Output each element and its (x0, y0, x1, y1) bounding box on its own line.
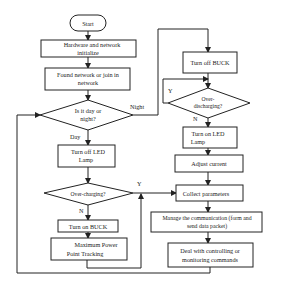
node-hw-init: Hardware and network initialize (41, 40, 136, 57)
node-turn-on-buck-text: Turn on BUCK (69, 223, 108, 230)
node-hw-init-line2: initialize (77, 49, 99, 56)
node-mppt-line1: Maximum Power (74, 241, 117, 248)
node-deal-commands-line1: Deal with controlling or (180, 247, 240, 254)
edge-label-charge-no: N (79, 207, 84, 214)
edge-label-discharge-yes: Y (168, 87, 173, 94)
node-over-discharging-decision: Over- discharging? (168, 88, 250, 118)
node-turn-on-led-line1: Turn on LED (191, 130, 225, 137)
node-manage-communication-line2: send data packet) (187, 223, 227, 230)
node-manage-communication: Manage the communication (form and send … (151, 212, 262, 232)
node-collect-parameters: Collect parameters (176, 185, 243, 201)
node-turn-off-buck-text: Turn off BUCK (190, 59, 230, 66)
node-day-night-decision: Is it day or night? (40, 100, 133, 130)
node-start: Start (70, 15, 106, 31)
node-turn-off-led: Turn off LED Lamp (58, 145, 115, 167)
node-deal-commands: Deal with controlling or monitoring comm… (168, 243, 253, 267)
node-turn-on-led: Turn on LED Lamp (183, 127, 237, 148)
node-found-network-line2: network (78, 79, 99, 86)
node-turn-off-led-line1: Turn off LED (71, 148, 106, 155)
edge-label-day: Day (70, 133, 81, 140)
node-day-night-line1: Is it day or (75, 107, 102, 114)
edge-label-night: Night (130, 103, 144, 110)
node-over-discharging-line2: discharging? (194, 103, 223, 109)
node-turn-on-buck: Turn on BUCK (58, 220, 118, 232)
node-mppt: Maximum Power Point Tracking (51, 238, 127, 260)
node-found-network-line1: Found network or join in (57, 71, 119, 78)
node-over-charging-decision: Over-charging? (44, 183, 133, 205)
edge-label-discharge-no: N (193, 115, 198, 122)
node-turn-off-led-line2: Lamp (79, 156, 93, 163)
node-manage-communication-line1: Manage the communication (form and (162, 215, 251, 222)
node-hw-init-line1: Hardware and network (64, 41, 122, 48)
node-turn-on-led-line2: Lamp (191, 138, 205, 145)
node-adjust-current-text: Adjust current (191, 160, 227, 167)
node-mppt-line2: Point Tracking (67, 250, 104, 257)
flowchart: Start Hardware and network initialize Fo… (0, 0, 284, 288)
node-over-charging-text: Over-charging? (71, 191, 106, 197)
node-over-discharging-line1: Over- (202, 96, 215, 102)
node-start-text: Start (82, 20, 94, 27)
node-turn-off-buck: Turn off BUCK (183, 52, 237, 73)
node-found-network: Found network or join in network (45, 68, 130, 90)
node-day-night-line2: night? (80, 115, 96, 122)
edge-label-charge-yes: Y (137, 180, 142, 187)
node-deal-commands-line2: monitoring commands (182, 256, 238, 263)
node-collect-parameters-text: Collect parameters (183, 190, 230, 197)
node-adjust-current: Adjust current (175, 155, 243, 172)
